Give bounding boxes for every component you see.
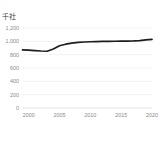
y-tick-label-600: 600 [10, 65, 19, 71]
y-tick-label-800: 800 [10, 52, 19, 58]
x-tick-label-2005: 2005 [54, 112, 66, 118]
x-tick-label-2000: 2000 [23, 112, 35, 118]
x-axis-tick-labels: 20002005201020152020 [23, 112, 158, 118]
x-tick-label-2020: 2020 [146, 112, 158, 118]
y-tick-label-0: 0 [16, 105, 19, 111]
y-tick-label-200: 200 [10, 92, 19, 98]
y-axis-tick-labels: 02004006008001,0001,200 [6, 25, 20, 111]
chart-svg: 02004006008001,0001,200 2000200520102015… [0, 0, 160, 143]
y-tick-label-400: 400 [10, 78, 19, 84]
y-tick-label-1000: 1,000 [6, 38, 20, 44]
y-tick-label-1200: 1,200 [6, 25, 20, 31]
line-chart: 千社 02004006008001,0001,200 2000200520102… [0, 0, 160, 143]
x-tick-label-2010: 2010 [84, 112, 96, 118]
gridlines-group [23, 28, 153, 108]
x-tick-label-2015: 2015 [115, 112, 127, 118]
plot-area: 02004006008001,0001,200 2000200520102015… [0, 0, 160, 143]
